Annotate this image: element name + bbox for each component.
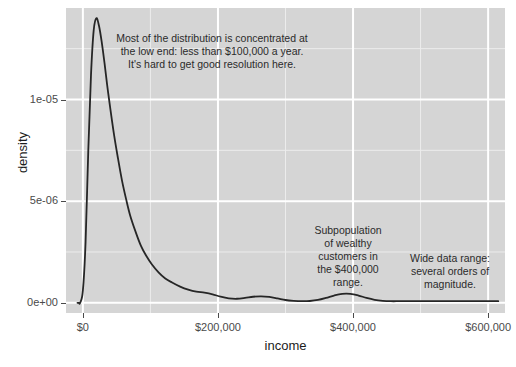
- annotation-wide-range: Wide data range: several orders of magni…: [402, 252, 498, 291]
- x-tick-mark: [353, 313, 354, 318]
- x-tick-mark: [83, 313, 84, 318]
- x-axis-title: income: [66, 338, 505, 353]
- y-tick-label: 0e+00: [0, 296, 58, 308]
- annotation-wealthy-subpopulation: Subpopulation of wealthy customers in th…: [296, 224, 400, 289]
- annotation-low-end: Most of the distribution is concentrated…: [112, 32, 312, 71]
- x-tick-mark: [488, 313, 489, 318]
- x-tick-label: $200,000: [158, 321, 278, 333]
- x-tick-label: $400,000: [293, 321, 413, 333]
- y-tick-mark: [61, 303, 66, 304]
- x-tick-label: $0: [23, 321, 143, 333]
- x-tick-mark: [218, 313, 219, 318]
- y-axis-title: density: [15, 73, 30, 233]
- y-tick-mark: [61, 100, 66, 101]
- density-plot: 0e+005e-061e-05 density $0$200,000$400,0…: [0, 0, 516, 367]
- x-tick-label: $600,000: [428, 321, 516, 333]
- y-tick-mark: [61, 201, 66, 202]
